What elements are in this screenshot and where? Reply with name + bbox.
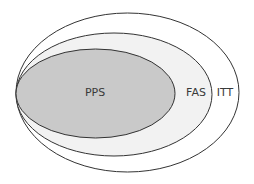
set-label-fas: FAS <box>186 86 206 99</box>
set-label-itt: ITT <box>217 86 234 99</box>
nested-sets-diagram: ITTFASPPS <box>0 0 254 184</box>
set-label-pps: PPS <box>85 86 105 99</box>
